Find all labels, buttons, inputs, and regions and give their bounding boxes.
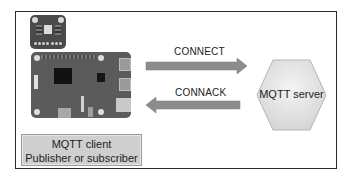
- server-label: MQTT server: [256, 88, 327, 100]
- mqtt-server-node: MQTT server: [256, 59, 327, 131]
- connack-arrow-icon: [146, 97, 240, 113]
- connack-label: CONNACK: [175, 87, 226, 98]
- connect-arrow-icon: [146, 58, 247, 74]
- connect-label: CONNECT: [174, 46, 225, 57]
